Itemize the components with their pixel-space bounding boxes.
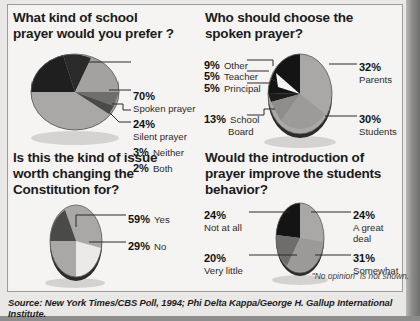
chart3-cat-yes: Yes (154, 214, 170, 225)
chart-who-chooses-prayer: Who should choose the spoken prayer? (205, 10, 395, 150)
chart1-title: What kind of school prayer would you pre… (13, 10, 205, 42)
chart4-title-line3: behavior? (205, 182, 268, 197)
chart3-title: Is this the kind of issue worth changing… (13, 150, 205, 197)
pie-slice-not-at-all (276, 203, 300, 238)
chart2-title-line2: spoken prayer? (205, 26, 303, 41)
chart4-cat-a-great-deal-2: deal (353, 234, 383, 245)
chart2-pct-school-board: 13% (204, 113, 226, 125)
chart4-label-a-great-deal: 24% A great deal (353, 205, 383, 245)
chart-prayer-improve-behavior: Would the introduction of prayer improve… (205, 150, 395, 284)
chart1-title-line2: prayer would you prefer ? (13, 26, 174, 41)
source-line: Source: New York Times/CBS Poll, 1994; P… (8, 297, 420, 319)
chart3-pie (13, 201, 205, 291)
chart4-pct-a-great-deal: 24% (353, 209, 375, 221)
chart2-cat-school-board-1: School (230, 114, 259, 125)
chart1-label-0: 70% Spoken prayer (133, 86, 195, 115)
chart4-title-line1: Would the introduction of (205, 150, 364, 165)
pie-shadow (31, 131, 119, 145)
chart3-pct-no: 29% (128, 240, 150, 252)
chart3-label-no: 29%No (128, 236, 166, 254)
no-opinion-note: "No opinion" is not shown. (312, 271, 409, 281)
chart4-cat-very-little: Very little (204, 266, 243, 277)
chart2-label-principal: 5%Principal (204, 78, 261, 96)
chart1-title-line1: What kind of school (13, 10, 137, 25)
chart4-pct-somewhat: 31% (353, 252, 375, 264)
chart3-cat-no: No (154, 241, 166, 252)
chart4-pct-not-at-all: 24% (204, 209, 226, 221)
chart1-label-1: 24% Silent prayer (133, 114, 187, 143)
chart3-title-line3: Constitution for? (13, 182, 119, 197)
chart-worth-changing-constitution: Is this the kind of issue worth changing… (13, 150, 205, 284)
chart2-pct-students: 30% (359, 113, 381, 125)
chart2-cat-school-board-2: Board (228, 127, 259, 138)
chart4-label-not-at-all: 24% Not at all (204, 205, 242, 234)
chart4-label-very-little: 20% Very little (204, 248, 243, 277)
page-edge-shadow (406, 0, 420, 316)
chart1-pct-0: 70% (133, 90, 155, 102)
chart3-label-yes: 59%Yes (128, 209, 170, 227)
chart2-label-students: 30% Students (359, 109, 397, 138)
chart2-label-parents: 32% Parents (359, 57, 392, 86)
chart3-title-line1: Is this the kind of issue (13, 150, 157, 165)
chart3-pct-yes: 59% (128, 213, 150, 225)
chart2-pct-parents: 32% (359, 61, 381, 73)
chart2-cat-parents: Parents (359, 75, 392, 86)
chart2-title: Who should choose the spoken prayer? (205, 10, 395, 42)
chart2-cat-principal: Principal (224, 83, 261, 94)
chart3-title-line2: worth changing the (13, 166, 134, 181)
chart2-title-line1: Who should choose the (205, 10, 353, 25)
chart4-cat-not-at-all: Not at all (204, 223, 242, 234)
chart4-title-line2: prayer improve the students (205, 166, 381, 181)
chart1-pct-1: 24% (133, 118, 155, 130)
chart4-title: Would the introduction of prayer improve… (205, 150, 395, 197)
chart4-pct-very-little: 20% (204, 252, 226, 264)
chart2-pct-principal: 5% (204, 82, 220, 94)
chart2-cat-students: Students (359, 127, 397, 138)
chart2-label-school-board: 13%School Board (204, 109, 259, 138)
chart-school-prayer-preference: What kind of school prayer would you pre… (13, 10, 205, 150)
